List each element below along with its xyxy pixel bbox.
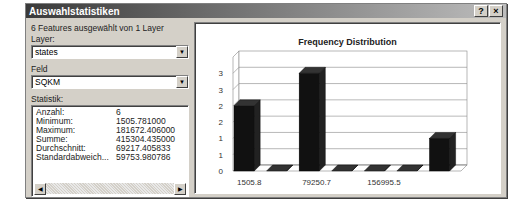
- layer-value: states: [32, 47, 58, 57]
- chevron-down-icon[interactable]: ▼: [176, 76, 188, 88]
- svg-text:1: 1: [219, 151, 224, 160]
- svg-text:2: 2: [219, 118, 224, 127]
- scroll-track[interactable]: [46, 183, 174, 194]
- help-button[interactable]: ?: [474, 5, 488, 17]
- stat-value: 59753.980786: [116, 153, 170, 162]
- selection-statistics-dialog: Auswahlstatistiken ? × 6 Features ausgew…: [25, 3, 507, 198]
- left-panel: 6 Features ausgewählt von 1 Layer Layer:…: [31, 22, 189, 197]
- svg-text:1505.8: 1505.8: [237, 178, 262, 187]
- field-label: Feld: [31, 64, 189, 74]
- field-dropdown[interactable]: SQKM ▼: [31, 75, 189, 89]
- svg-text:0: 0: [219, 167, 224, 176]
- stat-name: Standardabweich...: [36, 153, 116, 162]
- svg-text:2: 2: [219, 102, 224, 111]
- layer-label: Layer:: [31, 34, 189, 44]
- selection-summary: 6 Features ausgewählt von 1 Layer: [31, 23, 189, 33]
- layer-dropdown[interactable]: states ▼: [31, 45, 189, 59]
- scroll-right-icon[interactable]: ▶: [174, 183, 186, 195]
- statistics-list: Anzahl:6Minimum:1505.781000Maximum:18167…: [31, 105, 189, 197]
- statistics-label: Statistik:: [31, 94, 189, 104]
- chart-panel: Frequency Distribution 01122331505.87925…: [194, 22, 501, 194]
- svg-text:3: 3: [219, 86, 224, 95]
- frequency-chart: 01122331505.879250.7156995.5: [195, 23, 500, 193]
- svg-text:79250.7: 79250.7: [302, 178, 331, 187]
- svg-text:1: 1: [219, 134, 224, 143]
- horizontal-scrollbar[interactable]: ◀ ▶: [34, 183, 186, 194]
- title-bar: Auswahlstatistiken ? ×: [26, 4, 506, 18]
- close-button[interactable]: ×: [489, 5, 503, 17]
- stat-row: Standardabweich...59753.980786: [32, 153, 188, 162]
- chevron-down-icon[interactable]: ▼: [176, 46, 188, 58]
- scroll-left-icon[interactable]: ◀: [34, 183, 46, 195]
- svg-text:156995.5: 156995.5: [367, 178, 401, 187]
- field-value: SQKM: [32, 77, 60, 87]
- svg-text:3: 3: [219, 69, 224, 78]
- dialog-title: Auswahlstatistiken: [29, 6, 120, 17]
